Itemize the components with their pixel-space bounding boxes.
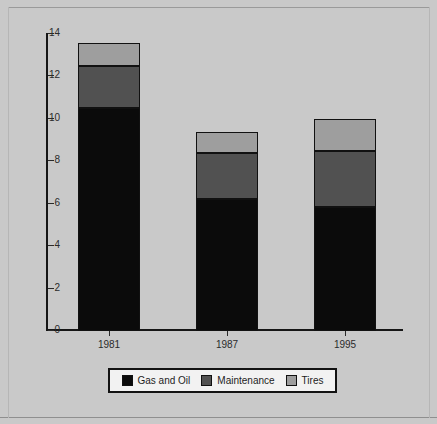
y-tick-label: 2 <box>34 283 60 293</box>
y-tick-label-row: 4 <box>0 240 60 250</box>
y-tick-label-row: 10 <box>0 113 60 123</box>
legend-item[interactable]: Maintenance <box>201 375 274 386</box>
y-tick-label-row: 6 <box>0 198 60 208</box>
y-tick-label-row: 8 <box>0 155 60 165</box>
y-tick-label-row: 2 <box>0 283 60 293</box>
legend-item[interactable]: Gas and Oil <box>122 375 191 386</box>
y-tick-label: 10 <box>34 113 60 123</box>
bar-segment-maint <box>314 151 376 207</box>
chart-figure: 02468101214 198119871995 Gas and OilMain… <box>0 0 437 424</box>
stacked-bar-1995 <box>314 119 376 331</box>
y-tick-label-row: 0 <box>0 325 60 335</box>
y-tick-label: 12 <box>34 70 60 80</box>
bar-segment-gas <box>196 199 258 331</box>
x-tick-mark <box>227 331 228 336</box>
legend-label: Tires <box>302 375 324 386</box>
legend-item[interactable]: Tires <box>286 375 324 386</box>
y-tick-label: 8 <box>34 155 60 165</box>
x-tick-label: 1995 <box>315 339 375 350</box>
bar-segment-tires <box>78 43 140 66</box>
stacked-bar-1987 <box>196 132 258 331</box>
legend-swatch-icon <box>286 375 297 386</box>
y-tick-label: 0 <box>34 325 60 335</box>
bar-segment-tires <box>314 119 376 151</box>
x-tick-mark <box>345 331 346 336</box>
x-tick-label: 1987 <box>197 339 257 350</box>
bar-segment-gas <box>78 108 140 331</box>
y-tick-label: 6 <box>34 198 60 208</box>
chart-legend: Gas and OilMaintenanceTires <box>108 368 337 393</box>
legend-swatch-icon <box>201 375 212 386</box>
plot-area: 02468101214 198119871995 <box>0 0 437 424</box>
legend-swatch-icon <box>122 375 133 386</box>
x-tick-label: 1981 <box>79 339 139 350</box>
y-tick-label: 14 <box>34 28 60 38</box>
bar-segment-gas <box>314 207 376 331</box>
y-tick-label-row: 14 <box>0 28 60 38</box>
legend-label: Maintenance <box>217 375 274 386</box>
bar-segment-tires <box>196 132 258 153</box>
y-tick-label: 4 <box>34 240 60 250</box>
y-tick-label-row: 12 <box>0 70 60 80</box>
bar-segment-maint <box>196 153 258 200</box>
legend-label: Gas and Oil <box>138 375 191 386</box>
stacked-bar-1981 <box>78 43 140 332</box>
bar-segment-maint <box>78 66 140 108</box>
x-tick-mark <box>109 331 110 336</box>
